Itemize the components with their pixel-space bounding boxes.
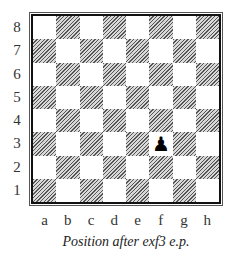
square-a8 (33, 16, 56, 39)
square-d1 (103, 179, 126, 202)
square-h4 (196, 109, 219, 132)
square-c3 (80, 132, 103, 155)
square-a2 (33, 156, 56, 179)
square-g1 (173, 179, 196, 202)
black-pawn-icon: ♟ (149, 132, 172, 155)
rank-label-1: 1 (11, 182, 23, 199)
rank-label-8: 8 (11, 19, 23, 36)
square-h2 (196, 156, 219, 179)
square-e1 (126, 179, 149, 202)
square-c2 (80, 156, 103, 179)
file-label-g: g (174, 212, 194, 229)
square-h1 (196, 179, 219, 202)
file-label-a: a (35, 212, 55, 229)
square-b4 (56, 109, 79, 132)
square-h7 (196, 39, 219, 62)
rank-label-6: 6 (11, 66, 23, 83)
square-d6 (103, 63, 126, 86)
file-label-c: c (81, 212, 101, 229)
rank-label-4: 4 (11, 112, 23, 129)
square-a1 (33, 179, 56, 202)
square-g8 (173, 16, 196, 39)
file-label-h: h (197, 212, 217, 229)
square-f1 (149, 179, 172, 202)
square-b3 (56, 132, 79, 155)
rank-label-5: 5 (11, 89, 23, 106)
square-f8 (149, 16, 172, 39)
chess-board: ♟ (31, 14, 221, 204)
square-f6 (149, 63, 172, 86)
square-g6 (173, 63, 196, 86)
square-d8 (103, 16, 126, 39)
square-f5 (149, 86, 172, 109)
file-label-b: b (58, 212, 78, 229)
diagram-caption: Position after exf3 e.p. (0, 234, 234, 250)
square-c6 (80, 63, 103, 86)
square-a6 (33, 63, 56, 86)
square-g4 (173, 109, 196, 132)
square-b2 (56, 156, 79, 179)
square-e8 (126, 16, 149, 39)
square-f3: ♟ (149, 132, 172, 155)
square-h8 (196, 16, 219, 39)
square-d2 (103, 156, 126, 179)
square-a3 (33, 132, 56, 155)
square-d5 (103, 86, 126, 109)
square-c4 (80, 109, 103, 132)
square-h6 (196, 63, 219, 86)
file-label-d: d (104, 212, 124, 229)
rank-label-3: 3 (11, 135, 23, 152)
file-label-e: e (128, 212, 148, 229)
square-h5 (196, 86, 219, 109)
square-f2 (149, 156, 172, 179)
square-b5 (56, 86, 79, 109)
square-b6 (56, 63, 79, 86)
square-b8 (56, 16, 79, 39)
square-g3 (173, 132, 196, 155)
square-a7 (33, 39, 56, 62)
square-c5 (80, 86, 103, 109)
square-e2 (126, 156, 149, 179)
square-e6 (126, 63, 149, 86)
square-c1 (80, 179, 103, 202)
file-label-f: f (151, 212, 171, 229)
square-c8 (80, 16, 103, 39)
square-e3 (126, 132, 149, 155)
square-e4 (126, 109, 149, 132)
square-d3 (103, 132, 126, 155)
square-b7 (56, 39, 79, 62)
square-f4 (149, 109, 172, 132)
rank-label-7: 7 (11, 42, 23, 59)
square-g5 (173, 86, 196, 109)
square-d4 (103, 109, 126, 132)
square-g7 (173, 39, 196, 62)
square-f7 (149, 39, 172, 62)
square-e7 (126, 39, 149, 62)
square-b1 (56, 179, 79, 202)
square-e5 (126, 86, 149, 109)
square-d7 (103, 39, 126, 62)
square-c7 (80, 39, 103, 62)
rank-label-2: 2 (11, 159, 23, 176)
square-a4 (33, 109, 56, 132)
square-a5 (33, 86, 56, 109)
square-g2 (173, 156, 196, 179)
square-h3 (196, 132, 219, 155)
